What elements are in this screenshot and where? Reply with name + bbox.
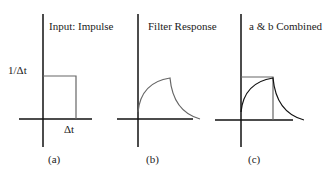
response-curve-b bbox=[138, 78, 200, 119]
panel-c bbox=[215, 14, 304, 147]
panel-b-title: Filter Response bbox=[148, 20, 217, 32]
panel-a bbox=[19, 14, 92, 147]
panel-b-caption: (b) bbox=[146, 153, 159, 165]
panel-a-title: Input: Impulse bbox=[49, 20, 113, 32]
panel-a-caption: (a) bbox=[48, 153, 60, 165]
panel-c-caption: (c) bbox=[248, 153, 260, 165]
impulse-box-a bbox=[43, 76, 76, 119]
panel-a-y-label: 1/Δt bbox=[8, 64, 27, 76]
panel-c-title: a & b Combined bbox=[249, 20, 322, 32]
panel-b bbox=[117, 14, 200, 147]
panel-a-x-label: Δt bbox=[64, 123, 74, 135]
